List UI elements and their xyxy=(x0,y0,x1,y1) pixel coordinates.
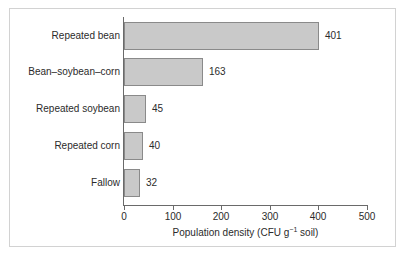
x-axis-title-suffix: soil) xyxy=(297,227,318,238)
bar-repeated-corn xyxy=(124,132,143,160)
bar-repeated-bean xyxy=(124,22,319,50)
x-tick-0 xyxy=(124,206,125,210)
x-tick-label-0: 0 xyxy=(104,211,144,223)
x-tick-300 xyxy=(270,206,271,210)
value-label-fallow: 32 xyxy=(146,177,157,189)
bar-repeated-soybean xyxy=(124,95,146,123)
x-axis-title-prefix: Population density (CFU g xyxy=(173,227,290,238)
value-label-repeated-corn: 40 xyxy=(149,140,160,152)
x-tick-100 xyxy=(173,206,174,210)
value-label-repeated-bean: 401 xyxy=(325,30,342,42)
category-label-bean-soybean-corn: Bean–soybean–corn xyxy=(4,66,120,78)
x-tick-label-400: 400 xyxy=(298,211,338,223)
category-label-repeated-soybean: Repeated soybean xyxy=(4,103,120,115)
figure: Repeated bean Bean–soybean–corn Repeated… xyxy=(0,0,407,258)
x-tick-label-300: 300 xyxy=(250,211,290,223)
x-tick-label-200: 200 xyxy=(201,211,241,223)
x-axis-line xyxy=(123,205,368,206)
x-tick-400 xyxy=(318,206,319,210)
x-tick-500 xyxy=(367,206,368,210)
bar-fallow xyxy=(124,169,140,197)
category-label-fallow: Fallow xyxy=(4,177,120,189)
x-tick-label-100: 100 xyxy=(153,211,193,223)
category-axis-labels: Repeated bean Bean–soybean–corn Repeated… xyxy=(0,0,120,258)
category-label-repeated-bean: Repeated bean xyxy=(4,30,120,42)
bar-bean-soybean-corn xyxy=(124,58,203,86)
x-axis-title: Population density (CFU g−1 soil) xyxy=(123,227,368,238)
value-label-repeated-soybean: 45 xyxy=(152,103,163,115)
category-label-repeated-corn: Repeated corn xyxy=(4,140,120,152)
x-tick-200 xyxy=(221,206,222,210)
value-label-bean-soybean-corn: 163 xyxy=(209,66,226,78)
x-tick-label-500: 500 xyxy=(347,211,387,223)
